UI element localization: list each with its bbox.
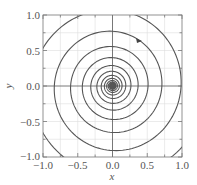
- x-axis-label: x: [109, 170, 115, 182]
- x-tick-label: −1.0: [33, 159, 53, 171]
- x-tick-label: 0.5: [140, 159, 154, 171]
- phase-portrait-chart: 1.0 0.5 0.0 −0.5 −1.0 −1.0 −0.5 0.0 0.5 …: [0, 0, 197, 185]
- y-tick-label: −0.5: [20, 116, 40, 128]
- y-tick-label: 0.0: [26, 80, 40, 92]
- x-tick-label: −0.5: [68, 159, 88, 171]
- y-tick-label: 0.5: [26, 45, 40, 57]
- x-tick-label: 1.0: [175, 159, 189, 171]
- spiral-curve: [32, 0, 197, 176]
- y-axis-label: y: [2, 83, 14, 89]
- y-tick-label: 1.0: [26, 9, 40, 21]
